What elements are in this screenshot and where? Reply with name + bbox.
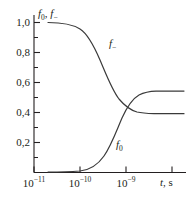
x-tick-mantissa-2: 10 — [69, 177, 80, 189]
x-tick-exponent-1: −11 — [34, 175, 45, 184]
x-tick-label-1: 10−11 — [9, 176, 59, 189]
curve-label-f-minus: f− — [109, 38, 116, 52]
y-minor-ticks — [34, 38, 38, 158]
y-tick-label-5: 0,2 — [2, 137, 30, 148]
x-tick-mantissa-3: 10 — [117, 177, 128, 189]
y-tick-label-1: 1,0 — [2, 17, 30, 28]
x-tick-exponent-2: −10 — [80, 175, 92, 184]
x-tick-exponent-3: −9 — [128, 175, 136, 184]
x-axis-title-unit: , s — [163, 176, 173, 188]
y-major-ticks — [34, 23, 40, 143]
x-tick-label-3: 10−9 — [101, 176, 151, 189]
x-axis-title: t, s — [160, 177, 173, 188]
y-axis-title: f0, f− — [38, 8, 58, 22]
curve-label-f-minus-sub: − — [112, 43, 116, 52]
x-tick-label-2: 10−10 — [55, 176, 105, 189]
plot-canvas — [0, 0, 193, 198]
curve-label-f-zero-sub: 0 — [119, 144, 123, 153]
curve-label-f-zero: f0 — [116, 139, 123, 153]
y-tick-label-4: 0,4 — [2, 107, 30, 118]
y-tick-label-2: 0,8 — [2, 47, 30, 58]
y-tick-label-3: 0,6 — [2, 77, 30, 88]
curve-f-minus — [48, 23, 184, 114]
figure-container: 1,0 0,8 0,6 0,4 0,2 10−11 10−10 10−9 t, … — [0, 0, 193, 198]
curve-f-zero — [48, 91, 184, 172]
x-tick-mantissa-1: 10 — [23, 177, 34, 189]
y-axis-title-sub2: − — [53, 13, 57, 22]
